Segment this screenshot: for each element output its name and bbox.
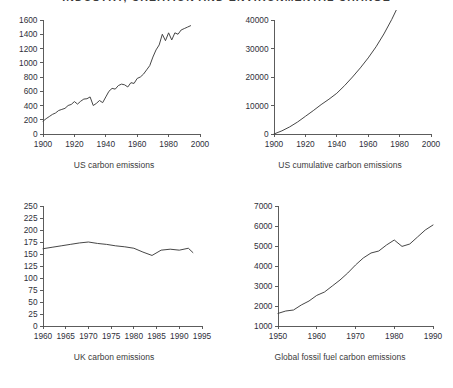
- y-axis-tick-label: 2000: [254, 301, 273, 311]
- x-axis-tick-label: 1920: [65, 139, 84, 149]
- series-line: [274, 10, 420, 134]
- chart-panel-us-cumulative-carbon-emissions: 010000200003000040000 190019201940196019…: [228, 10, 452, 186]
- y-axis-tick-label: 4000: [254, 261, 273, 271]
- y-axis-tick-label: 7000: [254, 201, 273, 211]
- y-axis-tick-label: 200: [24, 225, 38, 235]
- x-axis-tick-label: 1990: [424, 331, 443, 341]
- chart-axis-lines: [43, 20, 200, 134]
- x-axis-tick-label: 1980: [385, 331, 404, 341]
- chart-caption-us-cumulative-carbon-emissions: US cumulative carbon emissions: [228, 160, 452, 170]
- x-axis-tick-label: 1950: [269, 331, 288, 341]
- y-axis-tick-label: 5000: [254, 241, 273, 251]
- x-axis-tick-label: 1970: [346, 331, 365, 341]
- y-axis-tick-label: 600: [24, 86, 38, 96]
- y-axis-tick-label: 6000: [254, 221, 273, 231]
- x-axis-tick-label: 1900: [265, 139, 284, 149]
- y-axis-tick-label: 0: [264, 129, 269, 139]
- chart-panel-global-fossil-fuel-carbon-emissions: 1000200030004000500060007000 19501960197…: [228, 194, 452, 378]
- x-axis-tick-label: 1980: [390, 139, 409, 149]
- chart-svg-us-cumulative-carbon-emissions: 010000200003000040000 190019201940196019…: [228, 10, 452, 160]
- y-axis-tick-label: 10000: [245, 101, 268, 111]
- x-axis-tick-label: 1995: [193, 331, 212, 341]
- x-axis-tick-label: 1940: [328, 139, 347, 149]
- x-axis-tick-label: 1900: [34, 139, 53, 149]
- x-axis-tick-label: 1960: [34, 331, 53, 341]
- x-axis-tick-label: 1920: [296, 139, 315, 149]
- x-axis-tick-label: 1965: [56, 331, 75, 341]
- x-axis-tick-label: 1975: [102, 331, 121, 341]
- y-axis-tick-label: 1000: [19, 58, 38, 68]
- x-axis-tick-label: 1980: [125, 331, 144, 341]
- x-axis-tick-label: 1960: [128, 139, 147, 149]
- chart-grid: 02004006008001000120014001600 1900192019…: [0, 8, 453, 380]
- x-axis-tick-label: 1960: [359, 139, 378, 149]
- chart-caption-global-fossil-fuel-carbon-emissions: Global fossil fuel carbon emissions: [228, 352, 452, 362]
- y-axis-tick-label: 20000: [245, 72, 268, 82]
- x-axis-tick-label: 2000: [191, 139, 210, 149]
- x-axis-tick-label: 2000: [422, 139, 441, 149]
- y-axis-tick-label: 0: [33, 321, 38, 331]
- y-axis-tick-label: 150: [24, 249, 38, 259]
- chart-axis-lines: [278, 206, 433, 326]
- y-axis-tick-label: 50: [28, 297, 38, 307]
- y-axis-tick-label: 30000: [245, 44, 268, 54]
- chart-svg-us-carbon-emissions: 02004006008001000120014001600 1900192019…: [2, 10, 226, 160]
- y-axis-tick-label: 100: [24, 273, 38, 283]
- chart-panel-uk-carbon-emissions: 0255075100125150175200225250 19601965197…: [2, 194, 226, 378]
- x-axis-tick-label: 1960: [308, 331, 327, 341]
- x-axis-tick-label: 1940: [97, 139, 116, 149]
- chart-caption-uk-carbon-emissions: UK carbon emissions: [2, 352, 226, 362]
- chart-svg-global-fossil-fuel-carbon-emissions: 1000200030004000500060007000 19501960197…: [228, 194, 452, 352]
- y-axis-tick-label: 75: [28, 285, 38, 295]
- y-axis-tick-label: 40000: [245, 15, 268, 25]
- page-title: INDUSTRY, CREATION AND ENVIRONMENTAL CHA…: [0, 0, 453, 3]
- chart-svg-uk-carbon-emissions: 0255075100125150175200225250 19601965197…: [2, 194, 226, 352]
- y-axis-tick-label: 200: [24, 115, 38, 125]
- x-axis-tick-label: 1985: [147, 331, 166, 341]
- y-axis-tick-label: 25: [28, 309, 38, 319]
- y-axis-tick-label: 0: [33, 129, 38, 139]
- chart-caption-us-carbon-emissions: US carbon emissions: [2, 160, 226, 170]
- y-axis-tick-label: 1400: [19, 29, 38, 39]
- y-axis-tick-label: 175: [24, 237, 38, 247]
- series-line: [278, 225, 433, 313]
- x-axis-tick-label: 1990: [170, 331, 189, 341]
- chart-axis-lines: [43, 206, 202, 326]
- y-axis-tick-label: 1000: [254, 321, 273, 331]
- x-axis-tick-label: 1980: [159, 139, 178, 149]
- y-axis-tick-label: 125: [24, 261, 38, 271]
- y-axis-tick-label: 1200: [19, 44, 38, 54]
- y-axis-tick-label: 400: [24, 101, 38, 111]
- series-line: [43, 242, 193, 255]
- y-axis-tick-label: 225: [24, 213, 38, 223]
- y-axis-tick-label: 250: [24, 201, 38, 211]
- y-axis-tick-label: 800: [24, 72, 38, 82]
- chart-panel-us-carbon-emissions: 02004006008001000120014001600 1900192019…: [2, 10, 226, 186]
- series-line: [43, 26, 191, 121]
- x-axis-tick-label: 1970: [79, 331, 98, 341]
- y-axis-tick-label: 1600: [19, 15, 38, 25]
- y-axis-tick-label: 3000: [254, 281, 273, 291]
